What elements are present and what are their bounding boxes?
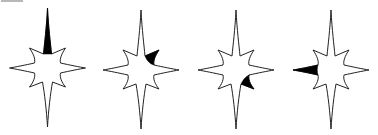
star-1 bbox=[10, 8, 86, 127]
star-2 bbox=[103, 10, 179, 129]
star-3 bbox=[198, 10, 274, 129]
star-outline bbox=[198, 10, 274, 129]
star-outline bbox=[103, 10, 179, 129]
star-sequence bbox=[0, 0, 378, 135]
star-4 bbox=[293, 10, 369, 129]
shaded-spike-top bbox=[44, 8, 52, 54]
shaded-spike-left bbox=[293, 65, 318, 75]
